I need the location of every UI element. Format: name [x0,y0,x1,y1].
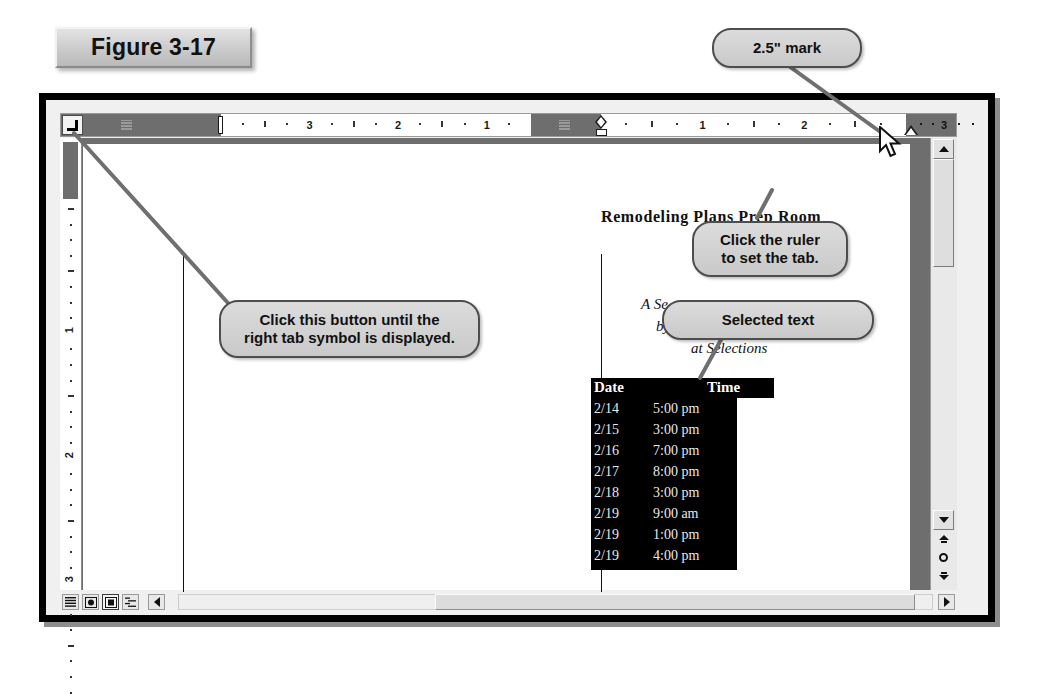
document-window-frame: 321 12 3 [39,93,995,622]
vertical-ruler-tick [70,504,72,506]
ruler-tick [375,123,377,125]
scroll-up-arrow-icon [939,146,949,152]
vertical-ruler-tick [70,380,72,382]
scroll-right-arrow-icon [944,597,950,607]
ruler-tick [264,121,266,127]
vertical-ruler[interactable]: 123 [60,138,82,590]
browse-object-circle-icon [939,553,948,562]
previous-page-button[interactable] [933,532,954,546]
table-header-date: Date [594,379,624,396]
table-cell-date: 2/19 [594,527,619,543]
callout-selected-text-label: Selected text [722,311,815,329]
vertical-ruler-tick [68,395,74,397]
table-cell-date: 2/17 [594,464,619,480]
ruler-tick [419,123,421,125]
outline-view-button[interactable] [122,594,139,610]
vertical-ruler-tick [70,489,72,491]
page-icon [105,597,117,608]
right-indent-marker[interactable] [904,125,918,135]
double-arrow-up-icon [939,535,949,544]
table-cell-date: 2/16 [594,443,619,459]
ruler-tick [958,123,960,125]
ruler-number: 2 [395,117,401,133]
ruler-tick [778,123,780,125]
document-subtitle-line-3: at Selections [691,340,767,357]
ruler-middle-margin[interactable] [531,114,601,136]
vertical-ruler-tick [70,426,72,428]
vertical-ruler-tick [70,364,72,366]
ruler-tick [464,123,466,125]
first-line-indent-marker[interactable] [595,115,607,136]
ruler-left-page-area[interactable]: 321 [221,114,531,136]
table-grid-icon [121,120,132,130]
vertical-ruler-tick [68,645,74,647]
scroll-up-arrow-button[interactable] [933,139,954,159]
ruler-tick [854,121,856,127]
select-browse-object-button[interactable] [933,550,954,564]
double-arrow-down-icon [939,571,949,580]
horizontal-scroll-bar-row [60,592,957,611]
table-header-time: Time [707,379,740,396]
normal-view-button[interactable] [62,594,79,610]
lines-icon [65,597,76,607]
ruler-number: 1 [484,117,490,133]
vertical-ruler-tick [70,286,72,288]
horizontal-ruler[interactable]: 321 12 3 [60,113,957,137]
ruler-tick [286,123,288,125]
ruler-tick [932,123,934,125]
ruler-tick [880,123,882,125]
ruler-tick [331,123,333,125]
ruler-number: 3 [307,117,313,133]
vertical-scrollbar[interactable] [930,138,957,590]
scroll-down-arrow-icon [939,517,949,523]
figure-label-text: Figure 3-17 [91,34,216,61]
ruler-tick [972,123,974,125]
vertical-ruler-top-margin [63,142,78,199]
horizontal-scroll-thumb[interactable] [435,594,915,610]
left-indent-marker[interactable] [218,116,223,134]
callout-click-this-button: Click this button until the right tab sy… [219,300,480,358]
vertical-ruler-tick [70,239,72,241]
table-cell-date: 2/19 [594,548,619,564]
ruler-left-margin[interactable] [61,114,221,136]
vertical-ruler-tick [70,567,72,569]
table-cell-time: 9:00 am [653,506,699,522]
print-layout-view-button[interactable] [102,594,119,610]
ruler-number: 1 [700,117,706,133]
ruler-tick [625,123,627,125]
table-cell-date: 2/15 [594,422,619,438]
selected-text-table[interactable]: DateTime2/145:00 pm2/153:00 pm2/167:00 p… [591,378,774,570]
scroll-down-arrow-button[interactable] [933,510,954,530]
scroll-left-button[interactable] [148,594,165,610]
vertical-ruler-tick [70,411,72,413]
tab-type-selector-button[interactable] [62,115,83,135]
vertical-ruler-tick [70,255,72,257]
vertical-ruler-number: 3 [64,576,78,582]
vertical-ruler-tick [68,208,74,210]
page-border-left [183,254,184,609]
next-page-button[interactable] [933,568,954,582]
horizontal-scroll-track[interactable] [178,594,933,610]
vertical-ruler-number: 2 [64,452,78,458]
vertical-ruler-tick [68,520,74,522]
ruler-tick [651,121,653,127]
table-cell-time: 3:00 pm [653,422,699,438]
vertical-ruler-tick [70,692,72,694]
web-layout-view-button[interactable] [82,594,99,610]
vertical-scroll-thumb[interactable] [933,159,954,267]
ruler-number: 3 [941,117,947,133]
table-cell-time: 3:00 pm [653,485,699,501]
ruler-right-page-area[interactable]: 12 [601,114,906,136]
callout-selected-text: Selected text [662,300,874,340]
callout-2-5-inch-mark-text: 2.5" mark [753,39,821,57]
table-cell-time: 4:00 pm [653,548,699,564]
vertical-ruler-tick [70,302,72,304]
scroll-right-button[interactable] [938,594,955,610]
vertical-ruler-number: 1 [64,327,78,333]
vertical-ruler-tick [70,676,72,678]
document-area: 123 [60,138,957,590]
vertical-ruler-tick [70,660,72,662]
ruler-right-margin[interactable]: 3 [906,114,956,136]
vertical-ruler-tick [70,536,72,538]
globe-icon [85,597,97,608]
